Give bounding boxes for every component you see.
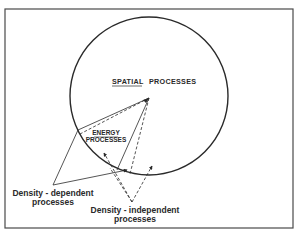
diagram-canvas: SPATIAL PROCESSES ENERGY PROCESSES Densi…: [0, 0, 298, 235]
spatial-label-rest: PROCESSES: [149, 77, 196, 86]
density-independent-label-line2: processes: [114, 214, 156, 224]
energy-label-line2: PROCESSES: [86, 136, 127, 143]
density-dependent-label-line2: processes: [32, 197, 74, 207]
spatial-processes-circle: [70, 17, 228, 175]
energy-label-line1: ENERGY: [92, 129, 120, 136]
svg-text:SPATIAL PROCESSES: SPATIAL PROCESSES: [112, 77, 196, 86]
spatial-label-underlined: SPATIAL: [112, 77, 144, 86]
